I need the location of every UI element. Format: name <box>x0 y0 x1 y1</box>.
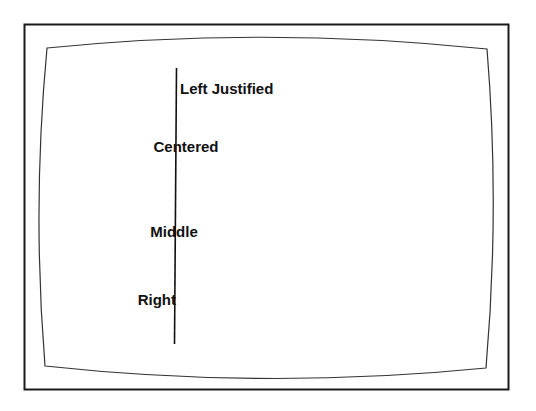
label-centered: Centered <box>153 138 218 155</box>
label-middle: Middle <box>150 223 198 240</box>
label-right: Right <box>138 291 176 308</box>
label-left-justified: Left Justified <box>180 80 273 97</box>
justification-diagram: Left Justified Centered Middle Right <box>0 0 536 411</box>
diagram-canvas: Left Justified Centered Middle Right <box>0 0 536 411</box>
